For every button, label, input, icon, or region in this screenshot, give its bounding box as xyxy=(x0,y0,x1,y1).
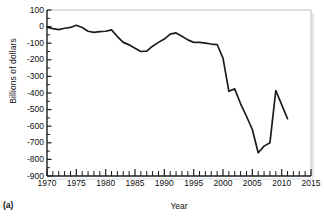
x-axis-title: Year xyxy=(46,201,312,211)
chart-figure: Billions of dollars 1000-100-200-300-400… xyxy=(0,0,324,221)
panel-label: (a) xyxy=(3,200,13,210)
data-line-0 xyxy=(47,25,288,152)
data-series-group xyxy=(47,25,288,152)
plot-area xyxy=(0,0,324,221)
